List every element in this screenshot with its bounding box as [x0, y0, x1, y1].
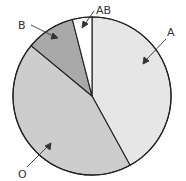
label-ab: AB	[96, 4, 111, 17]
label-o: O	[18, 168, 27, 181]
pie-chart: A O B AB	[0, 0, 186, 181]
label-b: B	[18, 19, 26, 32]
pie-slices	[13, 17, 171, 175]
label-a: A	[167, 26, 175, 39]
